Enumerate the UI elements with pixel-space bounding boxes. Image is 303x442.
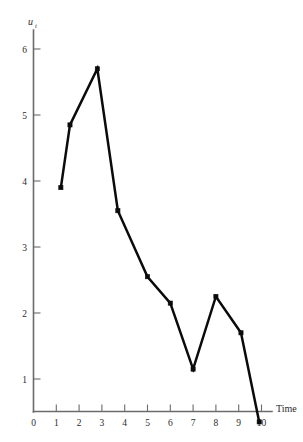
y-tick-label-2: 2 <box>22 309 27 319</box>
y-tick-label-5: 5 <box>22 111 27 121</box>
y-tick-label-3: 3 <box>22 243 27 253</box>
x-tick-label-5: 5 <box>145 418 150 428</box>
x-tick-label-4: 4 <box>122 418 127 428</box>
x-tick-label-9: 9 <box>236 418 241 428</box>
data-point <box>257 420 261 424</box>
y-tick-label-1: 1 <box>22 375 27 385</box>
x-axis-tick-labels: 0 1 2 3 4 5 6 7 8 9 10 <box>31 418 266 428</box>
chart-plot-area: 6 5 4 3 2 1 0 1 2 3 4 5 6 <box>0 0 303 442</box>
data-point-markers <box>59 67 262 424</box>
line-chart: 6 5 4 3 2 1 0 1 2 3 4 5 6 <box>0 0 303 442</box>
y-tick-label-4: 4 <box>22 177 27 187</box>
y-axis-title: u t <box>28 16 37 29</box>
x-tick-label-6: 6 <box>168 418 173 428</box>
y-tick-label-6: 6 <box>22 45 27 55</box>
x-tick-label-1: 1 <box>54 418 59 428</box>
data-point <box>191 367 195 371</box>
data-point <box>68 123 72 127</box>
x-axis-ticks <box>56 405 261 412</box>
x-tick-label-7: 7 <box>191 418 196 428</box>
y-axis-tick-labels: 6 5 4 3 2 1 <box>22 45 27 385</box>
data-point <box>145 275 149 279</box>
x-axis-title: Time <box>276 403 297 414</box>
y-axis-ticks <box>34 49 41 379</box>
data-point <box>214 294 218 298</box>
data-series-line <box>61 69 259 422</box>
data-point <box>239 331 243 335</box>
data-point <box>116 209 120 213</box>
y-axis-title-main: u <box>28 16 33 27</box>
y-axis-title-subscript: t <box>35 22 37 29</box>
x-tick-label-8: 8 <box>214 418 219 428</box>
data-point <box>59 186 63 190</box>
data-point <box>95 67 99 71</box>
x-tick-label-0: 0 <box>31 418 36 428</box>
data-point <box>168 301 172 305</box>
x-tick-label-3: 3 <box>100 418 105 428</box>
x-tick-label-2: 2 <box>77 418 82 428</box>
